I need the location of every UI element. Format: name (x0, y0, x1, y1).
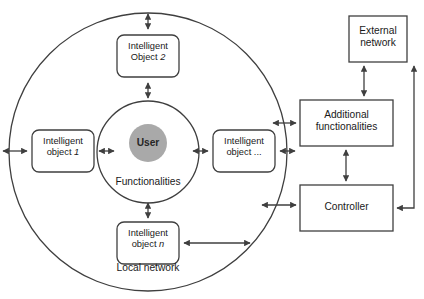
external-network-box[interactable] (349, 16, 407, 62)
intelligent-object-1-box[interactable] (32, 130, 94, 172)
connector-controller-external (397, 66, 414, 208)
intelligent-object-dots-box[interactable] (213, 130, 275, 172)
intelligent-object-n-box[interactable] (117, 222, 179, 264)
intelligent-object-2-box[interactable] (117, 35, 179, 77)
diagram-graphics (0, 0, 424, 299)
user-disc (129, 124, 167, 162)
additional-functionalities-box[interactable] (300, 100, 393, 146)
diagram-canvas: Intelligent Object 2 Intelligent object … (0, 0, 424, 299)
controller-box[interactable] (300, 185, 393, 231)
